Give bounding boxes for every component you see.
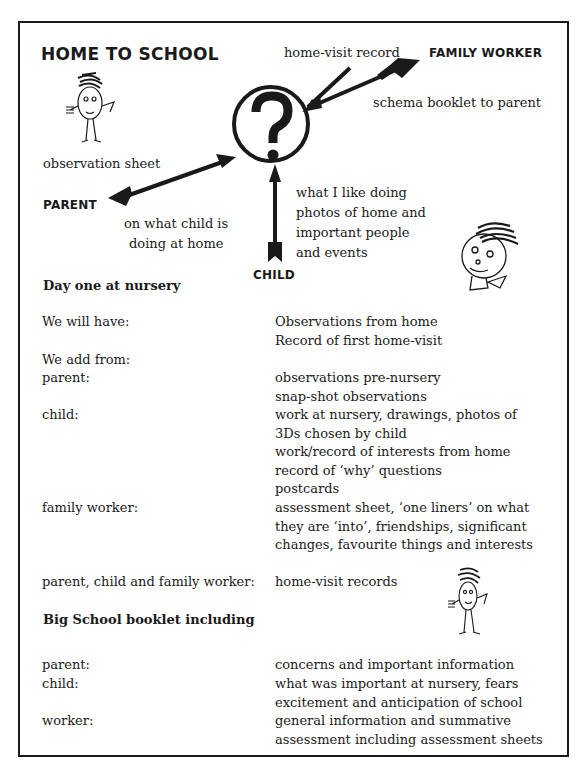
- row-label: parent, child and family worker:: [42, 573, 255, 592]
- row-label: We add from:: [42, 351, 130, 370]
- row-line: assessment including assessment sheets: [275, 731, 543, 750]
- row-label: parent:: [42, 656, 90, 675]
- row-line: work at nursery, drawings, photos of: [275, 406, 517, 425]
- row-value: work at nursery, drawings, photos of 3Ds…: [275, 406, 517, 499]
- label-observation-sheet: observation sheet: [43, 154, 160, 173]
- row-label: worker:: [42, 712, 93, 731]
- arrow-icon: [268, 164, 282, 262]
- row-line: general information and summative: [275, 712, 543, 731]
- row-line: Record of first home-visit: [275, 332, 442, 351]
- row-value: concerns and important information: [275, 656, 514, 675]
- label-child-line1: what I like doing: [296, 183, 407, 202]
- row-line: concerns and important information: [275, 656, 514, 675]
- label-parent-line2: doing at home: [129, 234, 223, 253]
- page-title: HOME TO SCHOOL: [41, 44, 219, 64]
- row-line: Observations from home: [275, 313, 442, 332]
- row-value: general information and summative assess…: [275, 712, 543, 749]
- section-heading-day-one: Day one at nursery: [43, 278, 180, 293]
- label-home-visit-record: home-visit record: [284, 43, 400, 62]
- row-line: changes, favourite things and interests: [275, 536, 533, 555]
- row-label: We will have:: [42, 313, 129, 332]
- row-line: snap-shot observations: [275, 388, 441, 407]
- row-line: excitement and anticipation of school: [275, 694, 522, 713]
- role-parent: PARENT: [43, 198, 97, 212]
- row-label: child:: [42, 406, 79, 425]
- row-line: record of ‘why’ questions: [275, 462, 517, 481]
- row-line: they are ‘into’, friendships, significan…: [275, 518, 533, 537]
- row-label: family worker:: [42, 499, 138, 518]
- row-value: home-visit records: [275, 573, 398, 592]
- row-value: assessment sheet, ‘one liners’ on what t…: [275, 499, 533, 555]
- label-schema-booklet: schema booklet to parent: [373, 93, 541, 112]
- role-family-worker: FAMILY WORKER: [429, 46, 542, 60]
- role-child: CHILD: [253, 268, 295, 282]
- row-line: what was important at nursery, fears: [275, 675, 522, 694]
- stick-figure-icon: [66, 73, 114, 142]
- row-value: Observations from home Record of first h…: [275, 313, 442, 350]
- row-label: child:: [42, 675, 79, 694]
- section-heading-big-school: Big School booklet including: [43, 612, 255, 627]
- child-face-icon: [462, 223, 518, 290]
- row-line: 3Ds chosen by child: [275, 425, 517, 444]
- label-child-line2: photos of home and: [296, 203, 426, 222]
- row-line: observations pre-nursery: [275, 369, 441, 388]
- stick-figure-icon: [448, 568, 487, 634]
- row-label: parent:: [42, 369, 90, 388]
- row-line: assessment sheet, ‘one liners’ on what: [275, 499, 533, 518]
- row-line: postcards: [275, 480, 517, 499]
- label-parent-line1: on what child is: [124, 214, 228, 233]
- row-value: what was important at nursery, fears exc…: [275, 675, 522, 712]
- label-child-line4: and events: [296, 243, 368, 262]
- row-line: work/record of interests from home: [275, 443, 517, 462]
- label-child-line3: important people: [296, 223, 410, 242]
- row-value: observations pre-nursery snap-shot obser…: [275, 369, 441, 406]
- row-line: home-visit records: [275, 573, 398, 592]
- question-mark-icon: [234, 87, 308, 161]
